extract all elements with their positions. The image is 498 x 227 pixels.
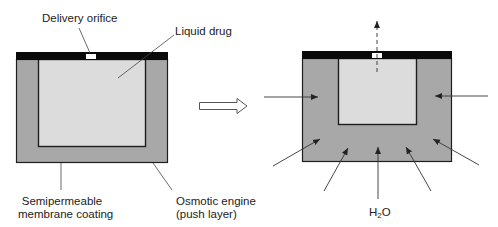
osmotic-pump-diagram: [0, 0, 498, 227]
leader-engine: [153, 163, 172, 190]
label-membrane-line1: Semipermeable: [18, 195, 106, 208]
water-o: O: [382, 206, 391, 218]
liquid-drug-reservoir: [39, 60, 146, 147]
label-membrane: Semipermeable membrane coating: [18, 195, 106, 221]
label-liquid-drug: Liquid drug: [175, 25, 232, 38]
delivery-orifice: [86, 54, 96, 59]
label-engine-line2: (push layer): [176, 208, 256, 221]
left-device: [16, 28, 174, 190]
label-water: H2O: [369, 206, 391, 219]
hollow-right-arrow-icon: [200, 99, 248, 114]
label-engine-line1: Osmotic engine: [176, 195, 256, 208]
label-osmotic-engine: Osmotic engine (push layer): [176, 195, 256, 221]
right-device: [264, 21, 488, 199]
leader-orifice: [79, 28, 90, 53]
label-membrane-line2: membrane coating: [18, 208, 106, 221]
label-delivery-orifice: Delivery orifice: [42, 12, 117, 25]
